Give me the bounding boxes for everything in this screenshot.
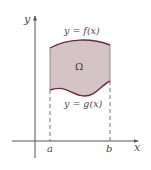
y-axis-label: y [23,13,31,26]
x-axis-label: x [134,141,141,154]
lower-curve-label: y = g(x) [63,98,103,109]
bound-a-label: a [47,143,53,154]
bound-b-label: b [106,143,112,154]
region-label: Ω [75,61,83,72]
upper-curve-label: y = f(x) [63,25,100,36]
region-diagram: y x y = f(x) y = g(x) Ω a b [0,0,151,170]
